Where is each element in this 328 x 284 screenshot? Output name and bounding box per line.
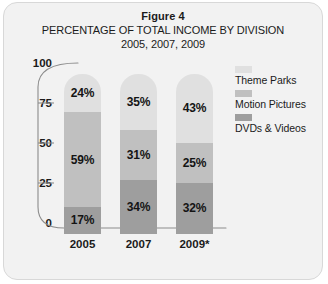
x-tick-label-2005: 2005 (64, 238, 101, 250)
bar-segment-motion-pictures-2007[interactable]: 31% (120, 130, 157, 180)
chart-subtitle: 2005, 2007, 2009 (4, 37, 322, 51)
bar-stack-2005: 24% 59% 17% (64, 74, 101, 234)
legend-swatch-icon (235, 90, 252, 97)
chart-title: PERCENTAGE OF TOTAL INCOME BY DIVISION (4, 23, 322, 37)
title-block: Figure 4 PERCENTAGE OF TOTAL INCOME BY D… (4, 9, 322, 51)
bar-segment-dvds-videos-2009[interactable]: 32% (176, 183, 213, 234)
x-tick-label-2007: 2007 (120, 238, 157, 250)
bar-segment-dvds-videos-2005[interactable]: 17% (64, 207, 101, 234)
bar-segment-label: 25% (183, 157, 206, 169)
bar-group-2005[interactable]: 24% 59% 17% 2005 (64, 74, 101, 234)
legend-label: Motion Pictures (235, 98, 327, 111)
bar-segment-motion-pictures-2009[interactable]: 25% (176, 143, 213, 183)
bar-segment-label: 31% (127, 149, 150, 161)
bar-segment-label: 34% (127, 201, 150, 213)
bar-segment-theme-parks-2009[interactable]: 43% (176, 74, 213, 143)
legend-item-dvds-videos[interactable]: DVDs & Videos (235, 114, 327, 135)
legend-label: Theme Parks (235, 74, 327, 87)
bar-segment-motion-pictures-2005[interactable]: 59% (64, 112, 101, 206)
x-tick-label-2009: 2009* (176, 238, 213, 250)
plot-area: 100 75 50 25 0 24% 59% (30, 61, 230, 251)
legend-swatch-icon (235, 114, 252, 121)
figure-label: Figure 4 (4, 9, 322, 23)
bar-segment-label: 59% (71, 154, 94, 166)
bar-segment-theme-parks-2005[interactable]: 24% (64, 74, 101, 112)
bar-group-2007[interactable]: 35% 31% 34% 2007 (120, 74, 157, 234)
bar-segment-label: 17% (71, 214, 94, 226)
bar-segment-label: 24% (71, 87, 94, 99)
bar-segment-label: 32% (183, 202, 206, 214)
bar-stack-2009: 43% 25% 32% (176, 74, 213, 234)
bar-segment-label: 35% (127, 96, 150, 108)
bars-layer: 24% 59% 17% 2005 35% (30, 61, 230, 251)
bar-segment-label: 43% (183, 102, 206, 114)
bar-segment-dvds-videos-2007[interactable]: 34% (120, 180, 157, 234)
bar-group-2009[interactable]: 43% 25% 32% 2009* (176, 74, 213, 234)
legend-label: DVDs & Videos (235, 122, 327, 135)
legend-item-theme-parks[interactable]: Theme Parks (235, 66, 327, 87)
chart-legend: Theme Parks Motion Pictures DVDs & Video… (235, 66, 327, 138)
legend-item-motion-pictures[interactable]: Motion Pictures (235, 90, 327, 111)
bar-segment-theme-parks-2007[interactable]: 35% (120, 74, 157, 130)
figure-frame: Figure 4 PERCENTAGE OF TOTAL INCOME BY D… (3, 2, 323, 280)
bar-stack-2007: 35% 31% 34% (120, 74, 157, 234)
legend-swatch-icon (235, 66, 252, 73)
